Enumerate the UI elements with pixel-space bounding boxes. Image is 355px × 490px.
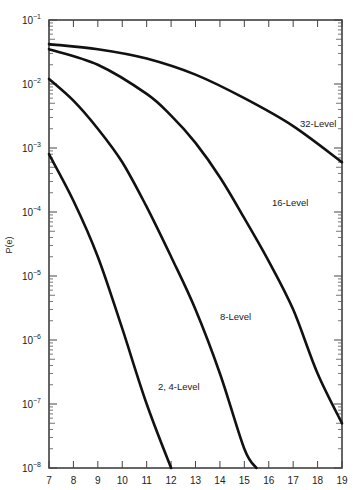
y-tick-label: 10−3 bbox=[22, 141, 41, 154]
series-label: 8-Level bbox=[220, 311, 251, 322]
x-tick-label: 10 bbox=[117, 475, 129, 486]
x-tick-label: 12 bbox=[166, 475, 178, 486]
x-tick-label: 7 bbox=[46, 475, 52, 486]
x-tick-label: 14 bbox=[214, 475, 226, 486]
x-tick-label: 15 bbox=[239, 475, 251, 486]
x-tick-label: 8 bbox=[71, 475, 77, 486]
y-tick-label: 10−8 bbox=[22, 461, 41, 474]
y-tick-label: 10−7 bbox=[22, 397, 41, 410]
series-label: 2, 4-Level bbox=[158, 381, 200, 392]
x-tick-label: 9 bbox=[95, 475, 101, 486]
x-tick-label: 16 bbox=[263, 475, 275, 486]
series-label: 32-Level bbox=[300, 118, 336, 129]
x-tick-label: 17 bbox=[288, 475, 300, 486]
x-tick-label: 11 bbox=[141, 475, 152, 486]
x-tick-label: 13 bbox=[190, 475, 202, 486]
series-curve-16-level bbox=[49, 49, 342, 423]
x-tick-label: 18 bbox=[312, 475, 324, 486]
y-tick-label: 10−1 bbox=[22, 13, 41, 26]
y-tick-label: 10−6 bbox=[22, 333, 41, 346]
y-tick-label: 10−4 bbox=[22, 205, 41, 218]
y-tick-label: 10−5 bbox=[22, 269, 41, 282]
error-probability-chart: 7891011121314151617181910−110−210−310−41… bbox=[0, 0, 355, 490]
series-label: 16-Level bbox=[272, 197, 308, 208]
y-tick-label: 10−2 bbox=[22, 77, 41, 90]
series-curve-8-level bbox=[49, 79, 257, 468]
series-curve-2-4-level bbox=[49, 154, 171, 468]
y-axis-label: P(e) bbox=[4, 236, 14, 253]
x-tick-label: 19 bbox=[336, 475, 348, 486]
